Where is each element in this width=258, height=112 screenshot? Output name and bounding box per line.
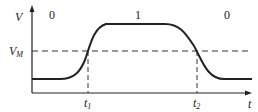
t1-label: t1 [84,96,91,111]
x-axis-label: t [248,97,252,111]
y-axis-label: V [15,10,24,24]
region-label-1: 1 [135,8,141,22]
y-axis-arrow-icon [30,5,35,12]
threshold-label: VM [9,44,24,59]
t2-label: t2 [193,96,200,111]
region-label-0: 0 [49,8,55,22]
region-label-2: 0 [224,8,230,22]
logic-pulse-diagram: V t VM 0 1 0 t1 t2 [0,0,258,112]
x-axis-arrow-icon [245,91,252,96]
